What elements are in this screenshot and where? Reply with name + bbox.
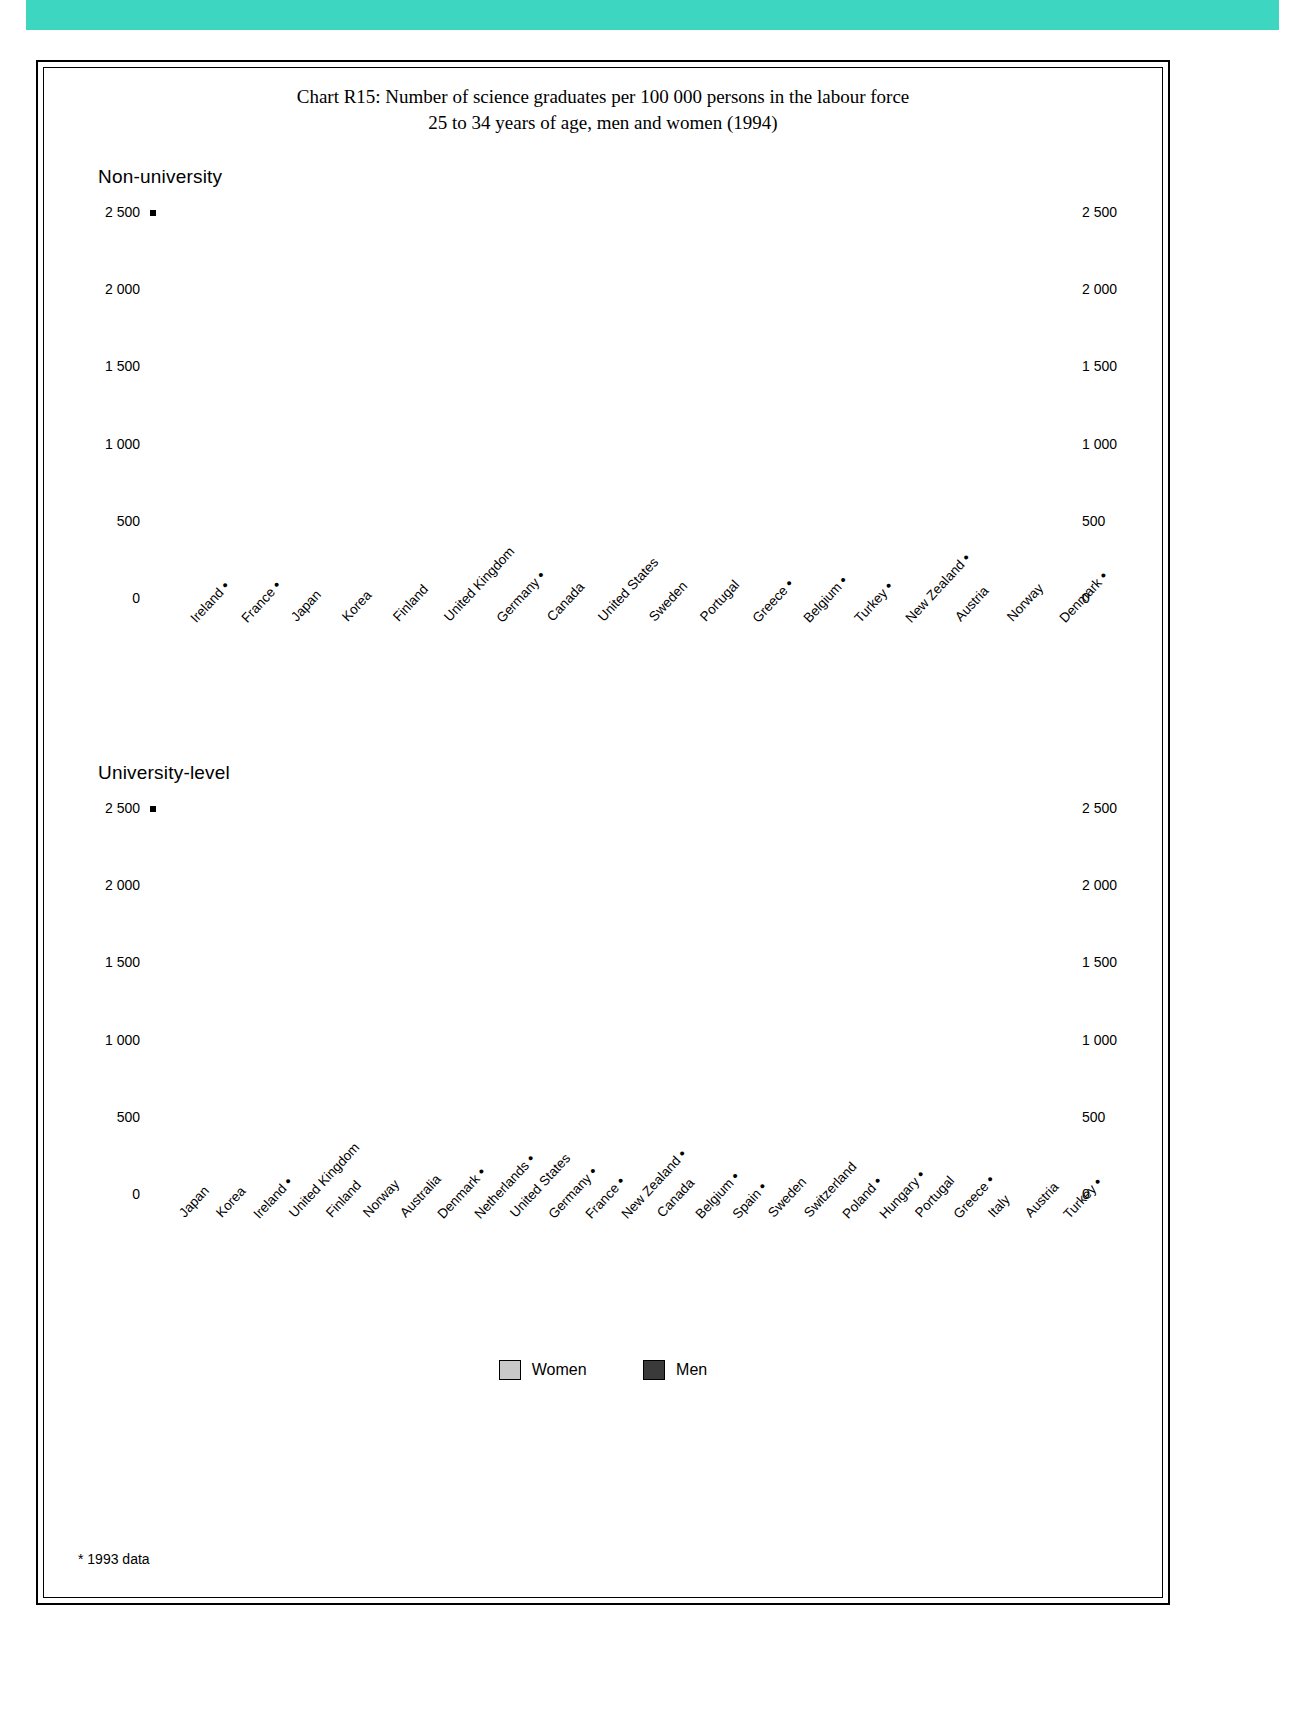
y-axis-tick-label: 500 <box>1082 1109 1164 1125</box>
y-axis-tick-label: 1 000 <box>1082 436 1164 452</box>
y-axis-tick-label: 0 <box>58 590 140 606</box>
x-axis-labels-non-university: Ireland •France •JapanKoreaFinlandUnited… <box>150 610 1070 730</box>
y-axis-tick-label: 1 500 <box>1082 358 1164 374</box>
chart-university-level <box>150 806 1070 1198</box>
bar-women <box>153 806 155 809</box>
title-line-1: Chart R15: Number of science graduates p… <box>38 84 1168 110</box>
y-axis-tick-label: 500 <box>58 1109 140 1125</box>
bar-men <box>155 210 156 213</box>
y-axis-tick-label: 500 <box>1082 513 1164 529</box>
page-title: Chart R15: Number of science graduates p… <box>38 84 1168 136</box>
footnote: * 1993 data <box>78 1551 150 1567</box>
y-axis-tick-label: 1 500 <box>58 954 140 970</box>
y-axis-tick-label: 2 500 <box>58 800 140 816</box>
plot-area-university-level <box>150 806 156 812</box>
y-axis-tick-label: 2 500 <box>1082 204 1164 220</box>
y-axis-tick-label: 1 500 <box>1082 954 1164 970</box>
legend-label-women: Women <box>532 1361 587 1379</box>
chart-page-frame: Chart R15: Number of science graduates p… <box>36 60 1170 1605</box>
legend-swatch-women-icon <box>499 1360 521 1380</box>
y-axis-tick-label: 2 500 <box>58 204 140 220</box>
bar-men <box>155 806 156 809</box>
y-axis-tick-label: 500 <box>58 513 140 529</box>
top-decorative-bar <box>0 0 1305 30</box>
y-axis-tick-label: 2 000 <box>58 281 140 297</box>
y-axis-tick-label: 1 500 <box>58 358 140 374</box>
legend-swatch-men-icon <box>643 1360 665 1380</box>
title-line-2: 25 to 34 years of age, men and women (19… <box>38 110 1168 136</box>
y-axis-tick-label: 2 000 <box>58 877 140 893</box>
plot-area-non-university <box>150 210 156 216</box>
top-bar-left-cap <box>0 0 26 30</box>
panel-label-non-university: Non-university <box>98 166 222 188</box>
y-axis-tick-label: 1 000 <box>58 436 140 452</box>
y-axis-tick-label: 2 000 <box>1082 877 1164 893</box>
legend-item-women: Women <box>499 1360 587 1380</box>
y-axis-tick-label: 2 500 <box>1082 800 1164 816</box>
chart-non-university <box>150 210 1070 602</box>
y-axis-tick-label: 2 000 <box>1082 281 1164 297</box>
y-axis-tick-label: 0 <box>58 1186 140 1202</box>
top-bar-right-cap <box>1279 0 1305 30</box>
chart-legend: Women Men <box>38 1360 1168 1380</box>
y-axis-tick-label: 1 000 <box>58 1032 140 1048</box>
y-axis-tick-label: 1 000 <box>1082 1032 1164 1048</box>
x-axis-labels-university-level: JapanKoreaIreland •United KingdomFinland… <box>150 1206 1070 1346</box>
bar-women <box>153 210 155 213</box>
legend-item-men: Men <box>643 1360 707 1380</box>
legend-label-men: Men <box>676 1361 707 1379</box>
panel-label-university-level: University-level <box>98 762 230 784</box>
